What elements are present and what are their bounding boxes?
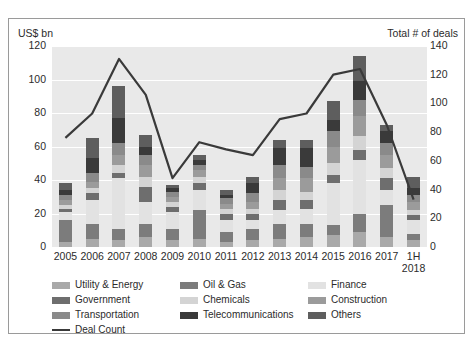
stacked-bar[interactable]	[86, 138, 99, 247]
bar-segment	[380, 131, 393, 143]
bar-segment	[86, 200, 99, 223]
bar-segment	[327, 163, 340, 175]
bar-segment	[246, 220, 259, 228]
bar-slot	[52, 46, 79, 247]
stacked-bar[interactable]	[220, 190, 233, 247]
bar-slot	[186, 46, 213, 247]
legend-label: Telecommunications	[203, 309, 294, 321]
stacked-bar[interactable]	[327, 101, 340, 247]
stacked-bar[interactable]	[246, 177, 259, 247]
bar-segment	[193, 190, 206, 210]
bar-slot	[239, 46, 266, 247]
stacked-bar[interactable]	[407, 177, 420, 247]
bar-group	[52, 46, 427, 247]
bar-slot	[266, 46, 293, 247]
legend-swatch	[180, 297, 198, 304]
legend-label: Deal Count	[75, 324, 125, 336]
stacked-bar[interactable]	[112, 86, 125, 247]
y-tick-label: 0	[16, 240, 46, 252]
bar-segment	[273, 140, 286, 148]
bar-slot	[373, 46, 400, 247]
stacked-bar[interactable]	[59, 183, 72, 247]
bar-segment	[246, 183, 259, 193]
legend-label: Chemicals	[203, 294, 250, 306]
bar-segment	[112, 229, 125, 241]
bar-segment	[220, 220, 233, 232]
bar-segment	[86, 173, 99, 181]
bar-segment	[380, 178, 393, 190]
y2-tick-label: 0	[430, 240, 462, 252]
stacked-bar[interactable]	[193, 155, 206, 247]
bar-segment	[86, 224, 99, 239]
legend-item[interactable]: Oil & Gas	[180, 279, 308, 291]
bar-segment	[86, 158, 99, 173]
legend-item[interactable]: Utility & Energy	[52, 279, 180, 291]
bar-segment	[220, 242, 233, 247]
legend-item[interactable]: Construction	[308, 294, 432, 306]
legend-label: Construction	[331, 294, 387, 306]
stacked-bar[interactable]	[273, 140, 286, 247]
y2-tick-label: 100	[430, 96, 462, 108]
legend-item[interactable]: Others	[308, 309, 432, 321]
bar-segment	[380, 168, 393, 178]
bar-segment	[59, 212, 72, 220]
bar-segment	[327, 131, 340, 146]
bar-segment	[139, 202, 152, 224]
bar-segment	[166, 212, 179, 229]
legend-item[interactable]: Deal Count	[52, 324, 180, 336]
stacked-bar[interactable]	[300, 140, 313, 247]
bar-segment	[300, 224, 313, 237]
bar-segment	[139, 147, 152, 155]
y2-tick-label: 40	[430, 183, 462, 195]
stacked-bar[interactable]	[166, 185, 179, 247]
bar-segment	[59, 242, 72, 247]
bar-segment	[327, 175, 340, 183]
bar-slot	[320, 46, 347, 247]
x-tick-label: 1H2018	[400, 250, 427, 274]
bar-segment	[407, 202, 420, 210]
legend-item[interactable]: Transportation	[52, 309, 180, 321]
y-tick-label: 80	[16, 106, 46, 118]
bar-segment	[193, 210, 206, 238]
bar-segment	[246, 177, 259, 184]
bar-segment	[353, 214, 366, 232]
bar-segment	[353, 116, 366, 136]
stacked-bar[interactable]	[139, 135, 152, 247]
bar-segment	[407, 188, 420, 195]
legend-item[interactable]: Chemicals	[180, 294, 308, 306]
bar-segment	[139, 165, 152, 177]
x-tick-label: 2017	[373, 250, 400, 274]
y-tick-label: 120	[16, 39, 46, 51]
legend-label: Transportation	[75, 309, 139, 321]
bar-segment	[193, 239, 206, 247]
bar-segment	[193, 170, 206, 177]
bar-segment	[407, 177, 420, 189]
legend-item[interactable]: Telecommunications	[180, 309, 308, 321]
bar-slot	[347, 46, 374, 247]
stacked-bar[interactable]	[353, 56, 366, 247]
legend-swatch	[52, 312, 70, 319]
bar-segment	[407, 195, 420, 202]
bar-segment	[246, 202, 259, 209]
bar-segment	[139, 187, 152, 202]
legend-label: Others	[331, 309, 361, 321]
bar-segment	[327, 183, 340, 225]
stacked-bar[interactable]	[380, 125, 393, 247]
legend-item[interactable]: Finance	[308, 279, 432, 291]
legend-item[interactable]: Government	[52, 294, 180, 306]
bar-segment	[112, 143, 125, 155]
bar-segment	[246, 240, 259, 247]
bar-segment	[273, 190, 286, 200]
bar-segment	[59, 183, 72, 190]
bar-slot	[106, 46, 133, 247]
legend-label: Finance	[331, 279, 367, 291]
bar-segment	[86, 193, 99, 200]
gridline	[52, 247, 427, 248]
bar-segment	[166, 240, 179, 247]
x-tick-label: 2007	[106, 250, 133, 274]
bar-segment	[380, 237, 393, 247]
bar-segment	[327, 147, 340, 164]
y2-tick-label: 120	[430, 68, 462, 80]
bar-segment	[407, 234, 420, 241]
right-axis-caption: Total # of deals	[387, 27, 458, 39]
